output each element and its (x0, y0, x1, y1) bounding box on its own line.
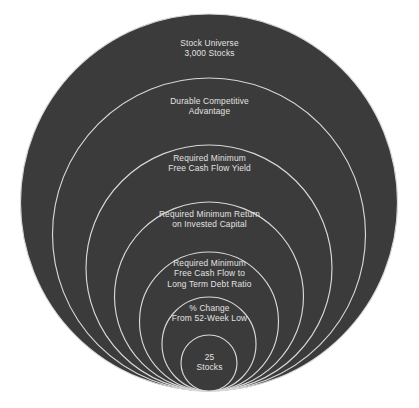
funnel-circles-svg (0, 0, 419, 408)
nested-circles-diagram: Stock Universe 3,000 Stocks Durable Comp… (0, 0, 419, 408)
ring-circle-final-selection (181, 335, 237, 391)
